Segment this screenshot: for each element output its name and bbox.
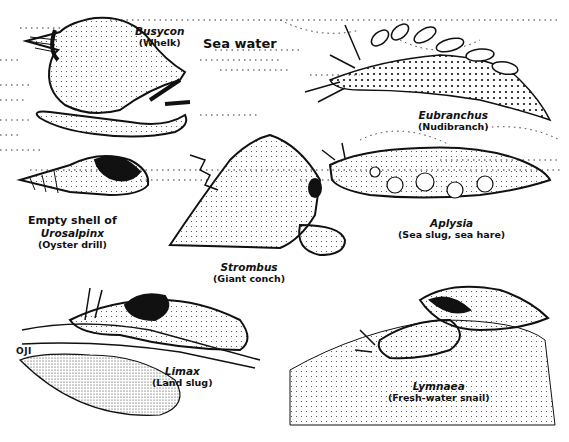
strombus-illustration	[170, 135, 345, 255]
label-aplysia: Aplysia (Sea slug, sea hare)	[398, 217, 505, 241]
urosalpinx-illustration	[20, 156, 148, 195]
label-eubranchus: Eubranchus (Nudibranch)	[418, 109, 489, 133]
genus-name: Lymnaea	[388, 380, 490, 392]
common-name: (Land slug)	[152, 377, 213, 389]
genus-name: Limax	[152, 365, 213, 377]
artist-signature: OJI	[16, 346, 32, 356]
limax-illustration	[20, 288, 260, 415]
genus-name: Strombus	[213, 261, 285, 273]
sea-water-label: Sea water	[203, 36, 277, 51]
label-limax: Limax (Land slug)	[152, 365, 213, 389]
common-name: (Nudibranch)	[418, 121, 489, 133]
genus-name: Urosalpinx	[28, 227, 117, 239]
label-urosalpinx: Empty shell of Urosalpinx (Oyster drill)	[28, 215, 117, 251]
common-name: (Giant conch)	[213, 273, 285, 285]
genus-name: Aplysia	[398, 217, 505, 229]
aplysia-illustration	[322, 143, 550, 198]
label-prefix: Empty shell of	[28, 215, 117, 227]
common-name: (Whelk)	[135, 37, 185, 49]
label-strombus: Strombus (Giant conch)	[213, 261, 285, 285]
label-busycon: Busycon (Whelk)	[135, 25, 185, 49]
common-name: (Sea slug, sea hare)	[398, 229, 505, 241]
genus-name: Busycon	[135, 25, 185, 37]
lymnaea-illustration	[290, 287, 555, 425]
common-name: (Oyster drill)	[28, 239, 117, 251]
common-name: (Fresh-water snail)	[388, 392, 490, 404]
genus-name: Eubranchus	[418, 109, 489, 121]
label-lymnaea: Lymnaea (Fresh-water snail)	[388, 380, 490, 404]
eubranchus-illustration	[305, 21, 550, 120]
